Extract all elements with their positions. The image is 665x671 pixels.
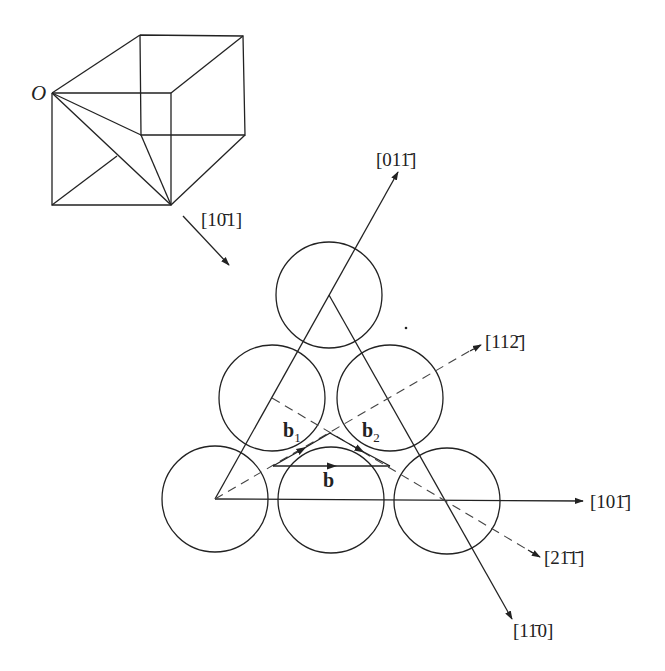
axis-11m2-arrowhead [470,345,481,351]
unit-cube: O [31,35,245,205]
vector-b-label: b [323,469,334,491]
label-2m1m1: [21̄1̄] [544,547,584,568]
vector-b2-line [360,450,390,466]
cube-edge [171,36,243,93]
fcc-slip-diagram: O [10̄1] b1 b2 b [011̄] [ [0,0,665,671]
axis-01m1-arrow [215,172,398,499]
vector-b1-label: b1 [283,419,301,445]
label-10m1: [101̄] [590,491,631,512]
axis-2m1m1-arrowhead [528,550,540,557]
vector-b1-arrow [273,450,302,467]
label-11m2: [112̄] [485,331,525,352]
atom-circle [337,345,443,451]
axis-11m2-dashed [215,345,480,499]
label-1m10: [11̄0] [513,620,553,641]
axis-10m1-arrow [215,499,583,501]
vector-b2-label: b2 [362,419,380,445]
cube-diagonal [52,93,171,205]
label-01m1: [011̄] [376,149,416,170]
cube-edge [171,135,245,205]
cube-diagonal [52,93,141,135]
cube-edge [52,35,140,93]
cube-diagonal [52,156,117,205]
origin-label: O [31,81,46,105]
view-direction-label: [10̄1] [201,209,242,230]
dot-mark [405,327,408,330]
cube-back-face [140,35,245,135]
burgers-vectors: b1 b2 b [273,419,390,491]
cube-diagonal [141,135,171,205]
